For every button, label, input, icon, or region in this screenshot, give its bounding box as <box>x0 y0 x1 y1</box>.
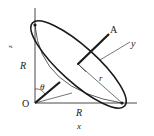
axis-oa-line <box>78 34 109 64</box>
y-axis <box>100 42 130 60</box>
label-theta: θ <box>40 82 45 92</box>
diagram-canvas: A y r R R x θ O z <box>0 0 154 136</box>
bottom-point <box>120 101 123 104</box>
label-r: r <box>99 73 103 83</box>
disk-diagram: A y r R R x θ O z <box>0 0 154 136</box>
label-x: x <box>76 121 81 131</box>
radius-line <box>78 64 122 103</box>
label-z: z <box>6 45 14 49</box>
label-origin: O <box>22 98 29 109</box>
top-point <box>33 23 36 26</box>
axis-oa-base <box>78 64 86 72</box>
label-a: A <box>110 24 118 35</box>
label-r-left: R <box>19 60 26 71</box>
label-y: y <box>130 38 136 49</box>
center-point <box>77 63 79 65</box>
label-r-bottom: R <box>75 107 82 118</box>
